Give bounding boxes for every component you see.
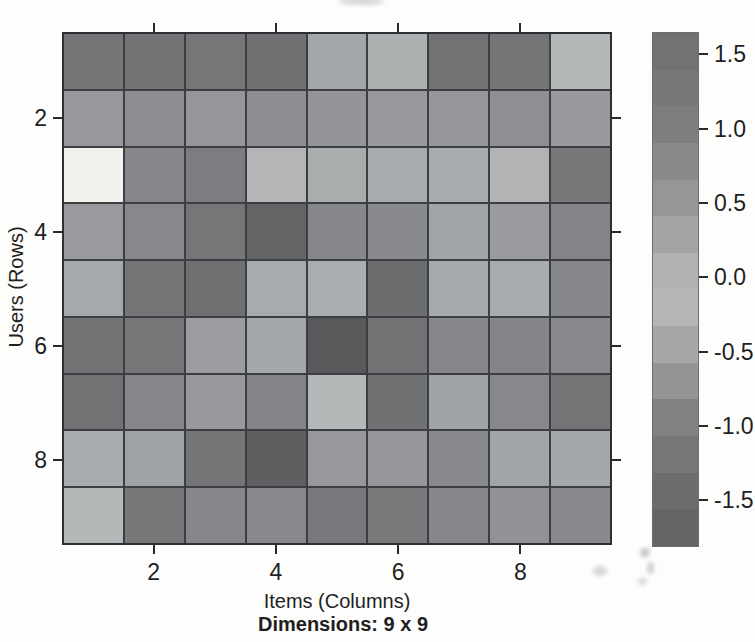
heatmap-cell-r4-c4 xyxy=(247,204,306,259)
heatmap-cell-r6-c4 xyxy=(247,318,306,373)
y-tick-left xyxy=(53,345,62,347)
x-tick-bottom xyxy=(153,545,155,554)
heatmap-cell-r1-c5 xyxy=(308,34,367,89)
colorbar-band xyxy=(653,436,698,473)
heatmap-cell-r5-c7 xyxy=(429,261,488,316)
x-tick-label: 6 xyxy=(392,561,405,584)
y-tick-left xyxy=(53,231,62,233)
colorbar-band xyxy=(653,363,698,400)
colorbar-tick xyxy=(699,276,708,278)
colorbar-band xyxy=(653,106,698,143)
scan-artifact-colorbar-2 xyxy=(647,562,654,574)
heatmap-cell-r1-c6 xyxy=(368,34,427,89)
colorbar-tick-label: 0.5 xyxy=(714,192,746,215)
heatmap-cell-r4-c8 xyxy=(490,204,549,259)
heatmap-cell-r2-c7 xyxy=(429,91,488,146)
colorbar-band xyxy=(653,143,698,180)
colorbar-band xyxy=(653,33,698,70)
heatmap-cell-r1-c1 xyxy=(64,34,123,89)
colorbar-tick-label: 1.0 xyxy=(714,117,746,140)
heatmap-cell-r7-c7 xyxy=(429,375,488,430)
y-tick-right xyxy=(612,117,621,119)
heatmap-cell-r2-c1 xyxy=(64,91,123,146)
colorbar-tick xyxy=(699,351,708,353)
heatmap-cell-r7-c5 xyxy=(308,375,367,430)
heatmap-cell-r9-c3 xyxy=(186,488,245,543)
colorbar-tick-label: 0.0 xyxy=(714,266,746,289)
colorbar-tick xyxy=(699,128,708,130)
heatmap-cell-r1-c2 xyxy=(125,34,184,89)
heatmap-cell-r1-c4 xyxy=(247,34,306,89)
heatmap-cell-r4-c3 xyxy=(186,204,245,259)
heatmap-cell-r7-c8 xyxy=(490,375,549,430)
x-axis-title: Items (Columns) xyxy=(264,590,411,613)
heatmap-cell-r3-c8 xyxy=(490,148,549,203)
colorbar-band xyxy=(653,216,698,253)
heatmap-cell-r3-c2 xyxy=(125,148,184,203)
colorbar-band xyxy=(653,289,698,326)
heatmap-cell-r8-c6 xyxy=(368,431,427,486)
heatmap-cell-r5-c2 xyxy=(125,261,184,316)
heatmap-cell-r1-c3 xyxy=(186,34,245,89)
colorbar xyxy=(652,32,699,547)
colorbar-tick xyxy=(699,425,708,427)
heatmap-cell-r1-c9 xyxy=(551,34,610,89)
heatmap-cell-r5-c4 xyxy=(247,261,306,316)
y-axis-title: Users (Rows) xyxy=(5,226,28,347)
heatmap-cell-r9-c8 xyxy=(490,488,549,543)
heatmap-cell-r1-c8 xyxy=(490,34,549,89)
heatmap-cell-r3-c3 xyxy=(186,148,245,203)
colorbar-band xyxy=(653,70,698,107)
heatmap-cell-r9-c7 xyxy=(429,488,488,543)
y-tick-label: 6 xyxy=(34,334,47,357)
heatmap-cell-r5-c9 xyxy=(551,261,610,316)
scan-artifact-colorbar-1 xyxy=(640,548,650,557)
heatmap-cell-r6-c2 xyxy=(125,318,184,373)
heatmap-cell-r8-c4 xyxy=(247,431,306,486)
heatmap-cell-r1-c7 xyxy=(429,34,488,89)
heatmap-cell-r6-c9 xyxy=(551,318,610,373)
heatmap-cell-r4-c7 xyxy=(429,204,488,259)
heatmap-cell-r2-c6 xyxy=(368,91,427,146)
y-tick-right xyxy=(612,459,621,461)
heatmap-cell-r2-c3 xyxy=(186,91,245,146)
heatmap-cell-r7-c3 xyxy=(186,375,245,430)
heatmap-cell-r2-c4 xyxy=(247,91,306,146)
y-tick-label: 2 xyxy=(34,106,47,129)
heatmap-cell-r2-c8 xyxy=(490,91,549,146)
heatmap-cell-r8-c8 xyxy=(490,431,549,486)
heatmap-cell-r8-c1 xyxy=(64,431,123,486)
figure-caption: Dimensions: 9 x 9 xyxy=(258,613,428,636)
heatmap-cell-r7-c6 xyxy=(368,375,427,430)
scan-artifact-right xyxy=(593,566,607,576)
heatmap-cell-r5-c1 xyxy=(64,261,123,316)
heatmap-cell-r5-c8 xyxy=(490,261,549,316)
x-tick-top xyxy=(519,23,521,32)
x-tick-top xyxy=(153,23,155,32)
heatmap-cell-r3-c4 xyxy=(247,148,306,203)
heatmap-cell-r7-c4 xyxy=(247,375,306,430)
heatmap-cell-r8-c2 xyxy=(125,431,184,486)
heatmap-cell-r5-c5 xyxy=(308,261,367,316)
heatmap-cell-r6-c3 xyxy=(186,318,245,373)
colorbar-tick xyxy=(699,202,708,204)
heatmap-cell-r9-c1 xyxy=(64,488,123,543)
colorbar-band xyxy=(653,180,698,217)
colorbar-band xyxy=(653,473,698,510)
x-tick-bottom xyxy=(519,545,521,554)
heatmap-cell-r2-c9 xyxy=(551,91,610,146)
heatmap-cell-r3-c9 xyxy=(551,148,610,203)
heatmap-cell-r4-c1 xyxy=(64,204,123,259)
heatmap-cell-r9-c2 xyxy=(125,488,184,543)
colorbar-tick xyxy=(699,499,708,501)
heatmap-cell-r9-c6 xyxy=(368,488,427,543)
x-tick-label: 2 xyxy=(147,561,160,584)
heatmap-cell-r9-c9 xyxy=(551,488,610,543)
heatmap-grid xyxy=(62,32,612,545)
heatmap-cell-r4-c6 xyxy=(368,204,427,259)
colorbar-tick-label: -1.0 xyxy=(714,415,754,438)
x-tick-bottom xyxy=(275,545,277,554)
scan-artifact-colorbar-3 xyxy=(638,578,647,585)
heatmap-cell-r5-c6 xyxy=(368,261,427,316)
x-tick-bottom xyxy=(397,545,399,554)
